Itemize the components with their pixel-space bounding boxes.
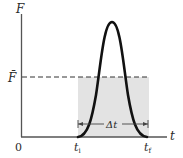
origin-label: 0 [15,141,22,154]
impulse-diagram: F F̄ t 0 Δt ti tf [0,0,183,158]
x-axis-label: t [170,129,175,143]
interval-label: Δt [105,119,118,130]
average-force-label: F̄ [7,70,17,85]
y-axis-label: F [15,2,25,16]
end-time-label: tf [144,141,152,155]
start-time-label: ti [74,141,81,155]
